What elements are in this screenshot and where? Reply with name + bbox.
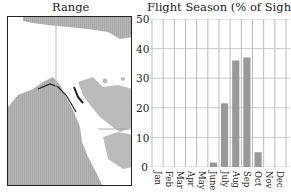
y-tick-0: 0 <box>136 162 148 172</box>
bar-sep <box>243 57 250 167</box>
bar-july <box>221 103 228 167</box>
x-tick-jan: Jan <box>153 171 162 185</box>
x-tick-apr: Apr <box>186 171 195 187</box>
chart-title: Flight Season (% of Sightings) <box>147 0 291 14</box>
x-tick-sep: Sep <box>242 171 251 187</box>
x-tick-july: July <box>220 171 229 187</box>
y-tick-20: 20 <box>136 103 148 113</box>
bar-aug <box>232 60 239 167</box>
y-tick-30: 30 <box>136 73 148 83</box>
range-title: Range <box>52 0 89 14</box>
bar-june <box>210 163 217 167</box>
y-tick-40: 40 <box>136 44 148 54</box>
y-tick-10: 10 <box>136 133 148 143</box>
x-tick-nov: Nov <box>264 171 273 188</box>
bar-oct <box>255 152 262 167</box>
range-map <box>7 16 132 186</box>
flight-season-plot <box>150 19 290 167</box>
range-map-graphic <box>8 17 132 186</box>
x-tick-oct: Oct <box>253 171 262 186</box>
x-tick-june: June <box>208 171 217 190</box>
x-tick-feb: Feb <box>164 171 173 187</box>
x-tick-may: May <box>197 171 206 190</box>
x-tick-dec: Dec <box>275 171 284 188</box>
x-tick-mar: Mar <box>175 171 184 189</box>
x-tick-aug: Aug <box>231 171 240 188</box>
y-tick-50: 50 <box>136 14 148 24</box>
